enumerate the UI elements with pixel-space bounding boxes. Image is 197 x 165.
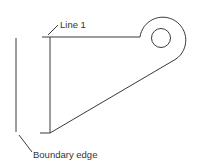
line1-leader bbox=[48, 25, 58, 35]
boundary-leader bbox=[19, 135, 32, 152]
bracket-diagram: Line 1 Boundary edge bbox=[0, 0, 197, 165]
diagonal-edge-line bbox=[50, 59, 176, 133]
inner-hole-circle bbox=[152, 29, 171, 48]
outer-arc bbox=[140, 17, 186, 59]
line1-label: Line 1 bbox=[60, 19, 86, 30]
boundary-edge-label: Boundary edge bbox=[33, 149, 97, 160]
